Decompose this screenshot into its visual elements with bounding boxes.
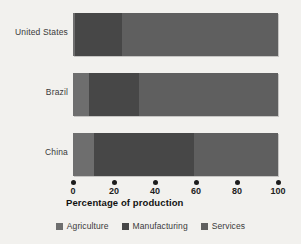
chart-legend: AgricultureManufacturingServices <box>0 221 301 231</box>
bar-united-states <box>73 13 278 56</box>
x-tick-label: 20 <box>109 186 119 196</box>
legend-swatch-icon <box>201 223 208 230</box>
bar-segment-services <box>139 73 278 116</box>
bar-segment-manufacturing <box>75 13 122 56</box>
legend-swatch-icon <box>122 223 129 230</box>
legend-swatch-icon <box>56 223 63 230</box>
legend-label: Manufacturing <box>133 221 188 231</box>
legend-label: Services <box>212 221 245 231</box>
bar-segment-manufacturing <box>89 73 138 116</box>
legend-label: Agriculture <box>67 221 109 231</box>
legend-item-manufacturing[interactable]: Manufacturing <box>122 221 188 231</box>
x-tick-label: 100 <box>270 186 285 196</box>
bar-segment-agriculture <box>73 133 94 176</box>
x-tick-dot <box>153 180 158 185</box>
legend-item-agriculture[interactable]: Agriculture <box>56 221 109 231</box>
bar-brazil <box>73 73 278 116</box>
x-tick-label: 60 <box>191 186 201 196</box>
bar-china <box>73 133 278 176</box>
bar-segment-services <box>194 133 278 176</box>
legend-item-services[interactable]: Services <box>201 221 245 231</box>
x-tick-dot <box>235 180 240 185</box>
x-axis-title: Percentage of production <box>66 197 183 208</box>
stacked-bar-chart: United States Brazil China 020406080100 … <box>0 0 301 244</box>
x-tick-dot <box>71 180 76 185</box>
x-tick-dot <box>112 180 117 185</box>
x-tick-dot <box>194 180 199 185</box>
category-label-brazil: Brazil <box>0 87 68 97</box>
category-label-united-states: United States <box>0 27 68 37</box>
bar-segment-manufacturing <box>94 133 194 176</box>
bar-segment-agriculture <box>73 73 89 116</box>
bar-segment-services <box>122 13 278 56</box>
x-tick-dot <box>276 180 281 185</box>
x-tick-label: 40 <box>150 186 160 196</box>
category-label-china: China <box>0 147 68 157</box>
x-tick-label: 0 <box>70 186 75 196</box>
x-tick-label: 80 <box>232 186 242 196</box>
